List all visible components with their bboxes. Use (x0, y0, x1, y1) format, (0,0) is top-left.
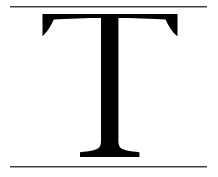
letter-t-path (43, 14, 178, 157)
baseline-rule (10, 166, 207, 167)
glyph-layer (0, 0, 218, 177)
letter-t-glyph (0, 0, 218, 177)
letter-specimen-canvas: T (0, 0, 218, 177)
